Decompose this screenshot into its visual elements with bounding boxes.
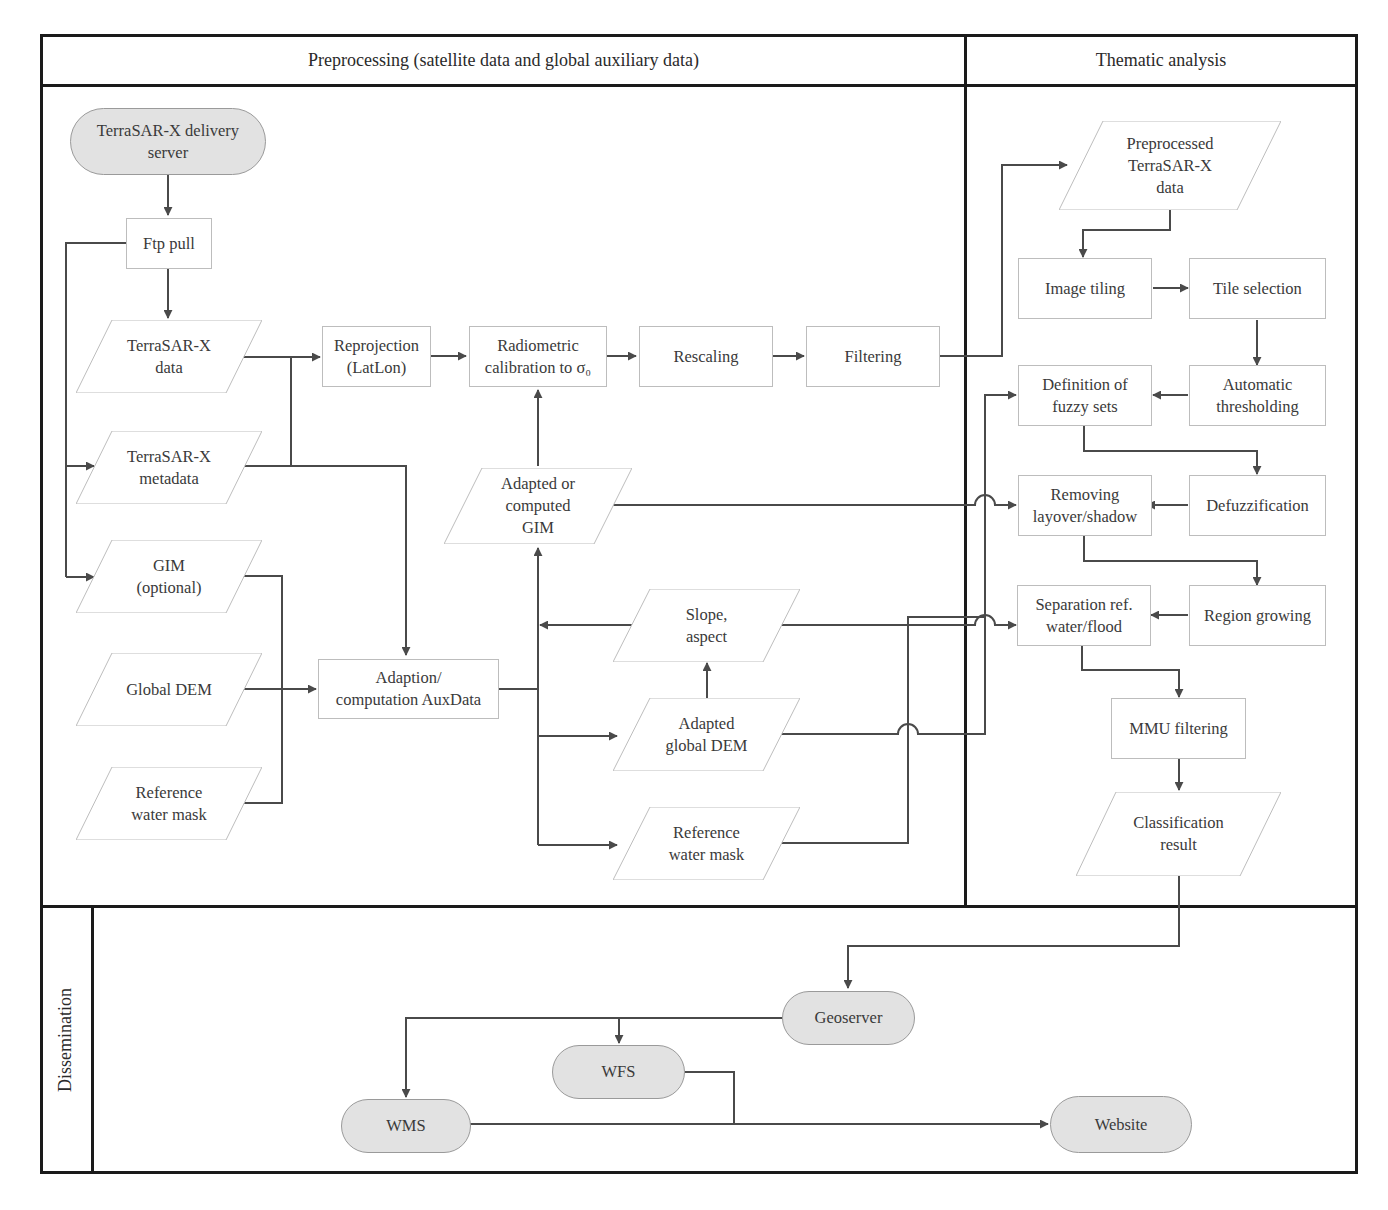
radiometric-calibration-node: Radiometric calibration to σ₀ <box>469 326 607 387</box>
tsx-data-label: TerraSAR-X data <box>127 335 211 379</box>
delivery-server-node: TerraSAR-X delivery server <box>70 108 266 175</box>
wfs-node: WFS <box>552 1045 685 1099</box>
flowchart-diagram: Preprocessing (satellite data and global… <box>0 0 1388 1210</box>
preprocessed-tsx-node: Preprocessed TerraSAR-X data <box>1059 121 1281 210</box>
adapted-global-dem-node: Adapted global DEM <box>613 698 800 771</box>
adapted-gim-label: Adapted or computed GIM <box>501 473 575 539</box>
reference-water-mask-output-label: Reference water mask <box>669 822 745 866</box>
defuzzification-node: Defuzzification <box>1189 475 1326 536</box>
region-growing-node: Region growing <box>1189 585 1326 646</box>
image-tiling-node: Image tiling <box>1018 258 1152 319</box>
preprocessing-title: Preprocessing (satellite data and global… <box>43 37 964 84</box>
global-dem-label: Global DEM <box>126 679 212 701</box>
reference-water-mask-input-label: Reference water mask <box>131 782 207 826</box>
reference-water-mask-input-node: Reference water mask <box>76 767 262 840</box>
reference-water-mask-output-node: Reference water mask <box>613 807 800 880</box>
thematic-title: Thematic analysis <box>967 37 1355 84</box>
tsx-data-node: TerraSAR-X data <box>76 320 262 393</box>
tsx-metadata-node: TerraSAR-X metadata <box>76 431 262 504</box>
classification-result-label: Classification result <box>1133 812 1224 856</box>
reprojection-node: Reprojection (LatLon) <box>322 326 431 387</box>
geoserver-node: Geoserver <box>782 991 915 1045</box>
separation-node: Separation ref. water/flood <box>1017 585 1151 646</box>
rescaling-node: Rescaling <box>639 326 773 387</box>
tile-selection-node: Tile selection <box>1189 258 1326 319</box>
mmu-filtering-node: MMU filtering <box>1111 698 1246 759</box>
gim-optional-node: GIM (optional) <box>76 540 262 613</box>
preprocessed-tsx-label: Preprocessed TerraSAR-X data <box>1126 133 1213 199</box>
gim-optional-label: GIM (optional) <box>136 555 201 599</box>
website-node: Website <box>1050 1096 1192 1153</box>
filtering-node: Filtering <box>806 326 940 387</box>
global-dem-node: Global DEM <box>76 653 262 726</box>
fuzzy-sets-node: Definition of fuzzy sets <box>1018 365 1152 426</box>
tsx-metadata-label: TerraSAR-X metadata <box>127 446 211 490</box>
dissemination-title: Dissemination <box>55 970 79 1110</box>
automatic-thresholding-node: Automatic thresholding <box>1189 365 1326 426</box>
slope-aspect-label: Slope, aspect <box>686 604 728 648</box>
classification-result-node: Classification result <box>1076 792 1281 876</box>
removing-layover-node: Removing layover/shadow <box>1018 475 1152 536</box>
slope-aspect-node: Slope, aspect <box>613 589 800 662</box>
adaption-auxdata-node: Adaption/ computation AuxData <box>318 659 499 719</box>
adapted-global-dem-label: Adapted global DEM <box>665 713 747 757</box>
adapted-gim-node: Adapted or computed GIM <box>444 468 632 544</box>
ftp-pull-node: Ftp pull <box>126 218 212 269</box>
wms-node: WMS <box>341 1099 471 1153</box>
